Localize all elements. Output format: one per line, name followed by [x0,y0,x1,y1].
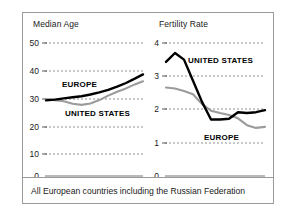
footnote-text: All European countries including the Rus… [23,186,245,196]
ytick-marks-fertility-rate [162,43,167,143]
series-line-europe-fertility-rate [166,88,265,128]
ytick-label-4: 4 [154,38,159,48]
ytick-label-1: 1 [154,138,159,148]
chart-panel-fertility-rate: Fertility Rate 4 3 2 1 0 [149,13,275,177]
series-label-europe-median-age: EUROPE [62,80,97,89]
ytick-label-40: 40 [30,66,40,76]
ytick-label-20: 20 [30,122,40,132]
chart-panel-median-age: Median Age 50 40 30 20 10 [23,13,149,177]
ytick-label-50: 50 [30,38,40,48]
ytick-label-10: 10 [30,149,40,159]
fertility-rate-plot: 4 3 2 1 0 UNITED STATES EUROPE '50 '60 '… [149,13,275,177]
figure-container: Median Age 50 40 30 20 10 [22,12,274,204]
series-label-europe-fertility-rate: EUROPE [204,133,239,142]
median-age-plot: 50 40 30 20 10 0 EUROPE UNITED STATES '5… [23,13,149,177]
series-label-united-states-fertility-rate: UNITED STATES [188,56,253,65]
ytick-label-3: 3 [154,71,159,81]
ytick-label-30: 30 [30,94,40,104]
footnote-bar: All European countries including the Rus… [23,177,273,203]
series-label-united-states-median-age: UNITED STATES [65,109,130,118]
ytick-label-2: 2 [154,104,159,114]
